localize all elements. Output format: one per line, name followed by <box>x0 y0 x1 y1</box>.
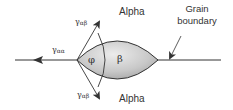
alpha-bottom-label: Alpha <box>119 94 145 104</box>
beta-label: β <box>117 54 123 64</box>
alpha-top-label: Alpha <box>119 7 145 17</box>
grain-boundary-label-line2: boundary <box>174 15 220 27</box>
gamma-ab-bottom-subscript: αβ <box>82 92 90 99</box>
gamma-ab-bottom-label: γαβ <box>77 91 89 99</box>
grain-boundary-pointer <box>170 36 181 58</box>
gamma-ab-top-label: γαβ <box>75 18 87 26</box>
gamma-aa-subscript: αα <box>57 47 65 54</box>
gamma-ab-top-subscript: αβ <box>80 19 88 26</box>
grain-boundary-label: Grain boundary <box>174 3 220 27</box>
grain-boundary-label-line1: Grain <box>174 3 220 15</box>
phi-label: φ <box>88 55 95 65</box>
gamma-aa-label: γαα <box>52 46 65 54</box>
